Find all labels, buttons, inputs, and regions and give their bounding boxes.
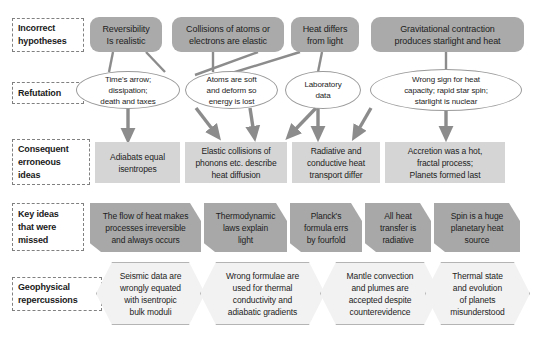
- refutation-laboratory-data[interactable]: Laboratorydata: [285, 71, 361, 109]
- consequent-idea-adiabats[interactable]: Adiabats equalisentropes: [95, 142, 180, 183]
- key-idea-plancks-formula[interactable]: Planck'sformula errsby fourfold: [290, 203, 362, 252]
- key-idea-text: All heattransfer isradiative: [380, 210, 416, 246]
- geophysical-wrong-formulae[interactable]: Wrong formulae areused for thermalconduc…: [200, 262, 325, 325]
- row-label-incorrect-hypotheses: Incorrecthypotheses: [12, 18, 84, 52]
- consequent-idea-text: Radiative andconductive heattransport di…: [307, 145, 365, 181]
- key-idea-text: The flow of heat makesprocesses irrevers…: [103, 210, 189, 246]
- geophysical-text: Wrong formulae areused for thermalconduc…: [226, 270, 299, 318]
- row-label-key-ideas-that-were-missed: Key ideasthat weremissed: [12, 203, 84, 251]
- hypothesis-text: ReversibilityIs realistic: [102, 23, 149, 47]
- row-label-text: Incorrecthypotheses: [18, 22, 67, 48]
- hypothesis-text: Heat differsfrom light: [303, 23, 348, 47]
- key-idea-spin-heat-source[interactable]: Spin is a hugeplanetary heatsource: [434, 203, 520, 252]
- row-label-text: Refutation: [18, 87, 61, 100]
- row-label-refutation: Refutation: [12, 82, 84, 104]
- hypothesis-text: Collisions of atoms orelectrons are elas…: [186, 23, 270, 47]
- consequent-idea-text: Elastic collisions ofphonons etc. descri…: [195, 145, 276, 181]
- key-idea-flow-of-heat[interactable]: The flow of heat makesprocesses irrevers…: [90, 203, 201, 252]
- hypothesis-gravitational-contraction[interactable]: Gravitational contractionproduces starli…: [371, 17, 524, 52]
- consequent-idea-accretion[interactable]: Accretion was a hot,fractal process;Plan…: [385, 142, 505, 183]
- geophysical-mantle-convection[interactable]: Mantle convectionand plumes areaccepted …: [320, 262, 440, 325]
- refutation-text: Laboratorydata: [304, 79, 341, 101]
- key-idea-thermodynamic-laws[interactable]: Thermodynamiclaws explainlight: [204, 203, 287, 252]
- key-idea-text: Thermodynamiclaws explainlight: [216, 210, 276, 246]
- consequent-idea-text: Accretion was a hot,fractal process;Plan…: [408, 145, 483, 181]
- refutation-text: Wrong sign for heatcapacity; rapid star …: [404, 74, 488, 107]
- geophysical-seismic-data[interactable]: Seismic data arewrongly equatedwith isen…: [96, 262, 205, 325]
- geophysical-text: Mantle convectionand plumes areaccepted …: [347, 270, 414, 318]
- refutation-atoms-soft[interactable]: Atoms are softand deform soenergy is los…: [185, 71, 278, 109]
- refutation-wrong-sign[interactable]: Wrong sign for heatcapacity; rapid star …: [370, 69, 522, 111]
- hypothesis-reversibility[interactable]: ReversibilityIs realistic: [90, 17, 162, 52]
- diagram-canvas: Incorrecthypotheses Refutation Consequen…: [0, 0, 534, 341]
- row-label-text: Geophysicalrepercussions: [18, 281, 78, 307]
- hypothesis-collisions[interactable]: Collisions of atoms orelectrons are elas…: [172, 17, 284, 52]
- geophysical-text: Thermal stateand evolutionof planetsmisu…: [450, 270, 504, 318]
- consequent-idea-elastic-collisions[interactable]: Elastic collisions ofphonons etc. descri…: [185, 142, 287, 183]
- row-label-text: Key ideasthat weremissed: [18, 208, 59, 247]
- key-idea-text: Spin is a hugeplanetary heatsource: [451, 210, 503, 246]
- consequent-idea-text: Adiabats equalisentropes: [110, 151, 165, 175]
- consequent-idea-radiative-conductive[interactable]: Radiative andconductive heattransport di…: [292, 142, 380, 183]
- geophysical-text: Seismic data arewrongly equatedwith isen…: [120, 270, 182, 318]
- row-label-text: Consequenterroneousideas: [18, 143, 69, 182]
- hypothesis-heat-differs[interactable]: Heat differsfrom light: [291, 17, 359, 52]
- hypothesis-text: Gravitational contractionproduces starli…: [395, 23, 501, 47]
- key-idea-text: Planck'sformula errsby fourfold: [304, 210, 348, 246]
- row-label-consequent-erroneous-ideas: Consequenterroneousideas: [12, 139, 90, 185]
- key-idea-all-heat-transfer[interactable]: All heattransfer isradiative: [365, 203, 431, 252]
- refutation-text: Time's arrow;dissipation;death and taxes: [100, 74, 155, 107]
- row-label-geophysical-repercussions: Geophysicalrepercussions: [12, 277, 102, 311]
- geophysical-thermal-state[interactable]: Thermal stateand evolutionof planetsmisu…: [425, 262, 530, 325]
- refutation-times-arrow[interactable]: Time's arrow;dissipation;death and taxes: [76, 71, 180, 109]
- refutation-text: Atoms are softand deform soenergy is los…: [206, 74, 256, 107]
